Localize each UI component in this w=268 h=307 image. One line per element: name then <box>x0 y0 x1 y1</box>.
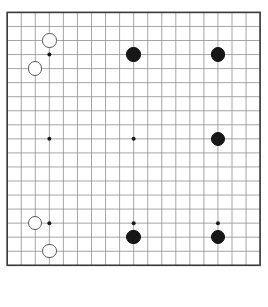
white-stone-c4[interactable] <box>28 216 42 230</box>
black-stone-q16[interactable] <box>211 47 225 61</box>
black-stone-q10[interactable] <box>211 132 225 146</box>
white-stone-d17[interactable] <box>42 33 56 47</box>
stone-layer[interactable] <box>0 0 268 307</box>
black-stone-q3[interactable] <box>211 230 225 244</box>
white-stone-d2[interactable] <box>42 244 56 258</box>
black-stone-k16[interactable] <box>126 47 140 61</box>
screenshot-root <box>0 0 268 307</box>
white-stone-c15[interactable] <box>28 61 42 75</box>
black-stone-k3[interactable] <box>126 230 140 244</box>
go-board-area[interactable] <box>0 0 268 307</box>
